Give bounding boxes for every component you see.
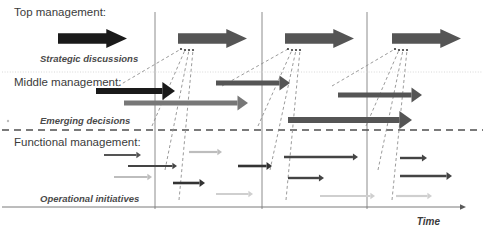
line-arrow-head-fn-10 [370, 193, 375, 200]
block-arrow-top-1 [58, 29, 127, 48]
converging-dashed-endpoint-6 [291, 49, 293, 51]
line-arrow-head-fn-1 [136, 152, 141, 159]
converging-dashed-endpoint-7 [295, 49, 297, 51]
line-arrow-head-mid-1 [162, 82, 175, 100]
axis-label-time: Time [417, 216, 441, 227]
converging-dashed-endpoint-12 [406, 49, 408, 51]
block-arrow-top-4 [392, 29, 461, 48]
line-arrow-head-mid-4 [412, 88, 423, 103]
line-arrow-head-fn-5 [200, 179, 205, 187]
converging-dashed-line-4 [179, 50, 193, 200]
block-arrow-top-3 [285, 29, 354, 48]
line-arrow-head-fn-3 [147, 174, 152, 181]
line-arrow-head-fn-9 [319, 174, 324, 181]
line-arrow-head-fn-7 [248, 191, 253, 198]
line-arrow-head-fn-2 [172, 163, 177, 170]
line-arrow-head-mid-3 [280, 76, 291, 91]
band-label-middle-management: Middle management: [14, 76, 121, 88]
flow-label-operational-initiatives: Operational initiatives [40, 193, 139, 204]
converging-dashed-line-9 [332, 49, 395, 86]
band-label-functional-management: Functional management: [14, 136, 141, 148]
line-arrow-head-fn-13 [427, 193, 432, 200]
time-axis [2, 204, 466, 210]
line-arrow-head-mid-2 [238, 96, 249, 111]
converging-dashed-line-5 [222, 49, 288, 86]
converging-dashed-endpoint-3 [188, 49, 190, 51]
bullet-dot [7, 120, 9, 122]
diagram-canvas: Top management: Middle management: Funct… [0, 0, 485, 232]
converging-dashed-endpoint-5 [287, 48, 289, 50]
line-arrow-head-fn-4 [217, 149, 222, 156]
converging-dashed-endpoint-2 [184, 49, 186, 51]
converging-dashed-line-7 [270, 50, 296, 170]
line-arrow-head-fn-12 [447, 172, 452, 180]
flow-label-strategic-discussions: Strategic discussions [40, 53, 138, 64]
converging-dashed-lines [118, 48, 408, 200]
converging-dashed-endpoint-8 [299, 49, 301, 51]
time-axis-arrowhead [460, 204, 466, 210]
line-arrow-head-mid-5 [399, 111, 412, 129]
converging-dashed-endpoint-9 [394, 48, 396, 50]
block-arrow-top-2 [178, 29, 247, 48]
converging-dashed-endpoint-4 [192, 49, 194, 51]
converging-dashed-line-10 [366, 50, 399, 126]
band-label-top-management: Top management: [14, 6, 106, 18]
converging-dashed-endpoint-10 [398, 49, 400, 51]
strategy-process-diagram: Top management: Middle management: Funct… [0, 0, 485, 232]
line-arrow-head-fn-11 [422, 154, 427, 161]
converging-dashed-line-6 [258, 50, 292, 126]
flow-label-emerging-decisions: Emerging decisions [40, 115, 130, 126]
converging-dashed-endpoint-1 [180, 48, 182, 50]
block-arrow-group [58, 29, 461, 48]
line-arrow-head-fn-8 [353, 153, 358, 160]
converging-dashed-line-11 [378, 50, 403, 170]
converging-dashed-endpoint-11 [402, 49, 404, 51]
